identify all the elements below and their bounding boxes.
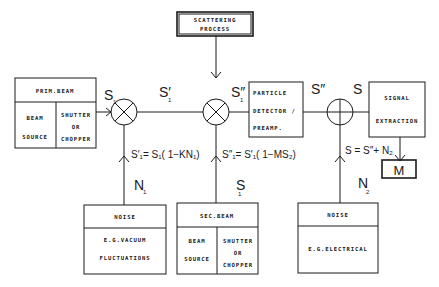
noise1-label-2: FLUCTUATIONS (99, 255, 150, 261)
signal-label-s1-secondary: S 1 (236, 177, 245, 197)
signal-extraction-label-2: EXTRACTION (376, 118, 419, 124)
equation-3: S = S″+ N₂ (345, 145, 393, 156)
sec-beam-shutter-1: SHUTTER (223, 238, 253, 244)
multiplier-node-2 (203, 99, 229, 125)
sec-beam-source-2: SOURCE (184, 256, 210, 262)
signal-label-n2: N 2 (358, 175, 370, 195)
signal-label-s1-double-prime: S″ 1 (231, 84, 245, 103)
svg-text:S: S (104, 87, 113, 103)
signal-label-n1: N 1 (134, 177, 147, 195)
noise-vacuum-block: NOISE E.G.VACUUM FLUCTUATIONS (84, 205, 166, 274)
sec-beam-block: SEC.BEAM BEAM SOURCE SHUTTER OR CHOPPER (177, 203, 258, 274)
signal-label-s1: S 1 (104, 87, 117, 105)
sec-beam-shutter-3: CHOPPER (223, 262, 253, 268)
scattering-process-block: SCATTERING PROCESS (177, 12, 253, 36)
sec-beam-shutter-2: OR (234, 250, 243, 256)
svg-text:2: 2 (366, 189, 370, 195)
detector-label-2: DETECTOR / (253, 108, 296, 114)
block-diagram: SCATTERING PROCESS PRIM.BEAM BEAM SOURCE… (0, 0, 439, 287)
prim-beam-shutter-2: OR (72, 124, 81, 130)
noise2-title: NOISE (327, 212, 348, 218)
svg-text:1: 1 (143, 189, 147, 195)
noise1-title: NOISE (114, 214, 135, 220)
equation-1: S′₁= S₁( 1−KN₁) (131, 149, 200, 160)
noise-electrical-block: NOISE E.G.ELECTRICAL (298, 203, 378, 273)
prim-beam-shutter-3: CHOPPER (61, 136, 91, 142)
meter-block: M (382, 160, 416, 178)
prim-beam-shutter-1: SHUTTER (61, 112, 91, 118)
prim-beam-source-1: BEAM (26, 115, 43, 121)
meter-label: M (394, 163, 405, 178)
noise2-label-1: E.G.ELECTRICAL (308, 246, 368, 252)
detector-label-1: PARTICLE (253, 90, 287, 96)
detector-label-3: PREAMP. (253, 125, 283, 131)
particle-detector-block: PARTICLE DETECTOR / PREAMP. (249, 82, 303, 137)
prim-beam-block: PRIM.BEAM BEAM SOURCE SHUTTER OR CHOPPER (15, 78, 96, 148)
signal-label-s: S (353, 81, 362, 97)
signal-label-s-double-prime: S″ (311, 81, 325, 97)
svg-text:1: 1 (168, 97, 172, 103)
scattering-label-2: PROCESS (200, 26, 230, 32)
signal-extraction-label-1: SIGNAL (384, 95, 410, 101)
prim-beam-title: PRIM.BEAM (36, 88, 74, 94)
signal-extraction-block: SIGNAL EXTRACTION (369, 82, 425, 137)
signal-label-s1-prime: S′ 1 (159, 84, 172, 103)
prim-beam-source-2: SOURCE (22, 134, 48, 140)
equation-2: S″₁= S′₁( 1−MS₂) (222, 149, 296, 160)
summer-node (327, 99, 353, 125)
sec-beam-source-1: BEAM (188, 238, 205, 244)
scattering-label-1: SCATTERING (194, 17, 237, 23)
sec-beam-title: SEC.BEAM (200, 213, 234, 219)
noise1-label-1: E.G.VACUUM (104, 237, 147, 243)
